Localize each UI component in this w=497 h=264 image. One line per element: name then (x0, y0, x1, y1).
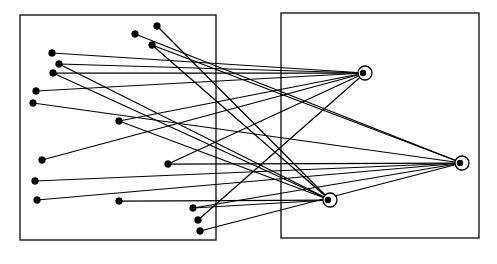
edges-layer (33, 26, 462, 231)
edge-link (152, 45, 462, 163)
hub-node-core (325, 197, 331, 203)
edge-link (135, 34, 462, 163)
edge-link (53, 73, 330, 200)
source-node (56, 61, 63, 68)
source-node (49, 50, 56, 57)
edge-link (33, 103, 462, 163)
source-node (149, 42, 156, 49)
node-link-diagram (0, 0, 497, 264)
edge-link (37, 163, 462, 200)
hub-node-core (360, 70, 366, 76)
source-node (197, 228, 204, 235)
edge-link (157, 26, 330, 200)
edge-link (168, 163, 462, 164)
source-node (33, 88, 40, 95)
source-node (50, 70, 57, 77)
source-node (30, 100, 37, 107)
source-node (165, 161, 172, 168)
source-node (154, 23, 161, 30)
source-node (39, 157, 46, 164)
edge-link (119, 121, 330, 200)
source-node (116, 118, 123, 125)
source-node (132, 31, 139, 38)
source-node (34, 197, 41, 204)
edge-link (59, 64, 330, 200)
hub-node-core (457, 160, 463, 166)
source-node (190, 205, 197, 212)
source-node (116, 198, 123, 205)
edge-link (52, 53, 365, 73)
edge-link (119, 200, 330, 201)
edge-link (35, 163, 462, 181)
right-region (281, 13, 479, 238)
source-node (32, 178, 39, 185)
source-node (195, 217, 202, 224)
figure-canvas (0, 0, 497, 264)
